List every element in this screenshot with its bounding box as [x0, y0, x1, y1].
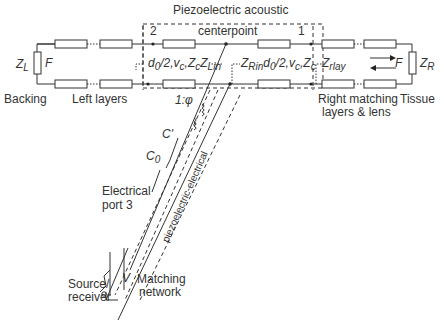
- right-layer-top-1: [322, 40, 354, 48]
- left-force-label: F: [45, 56, 53, 70]
- matching-network-label-2: network: [139, 285, 182, 299]
- piezo-right-top: [258, 40, 290, 48]
- tissue-impedance: [409, 52, 416, 74]
- centerpoint-label: centerpoint: [198, 24, 258, 38]
- right-piezo-params: ZRind0/2,vc,Zc: [240, 56, 316, 72]
- tissue-label: Tissue: [400, 92, 435, 106]
- backing-impedance: [34, 52, 41, 74]
- right-matching-label-2: layers & lens: [322, 105, 391, 119]
- backing-label: Backing: [4, 92, 47, 106]
- matching-network-label-1: Matching: [137, 272, 186, 286]
- voltage-label: V: [122, 271, 131, 285]
- transducer-equivalent-circuit: Piezoelectric acoustic centerpoint 2 1 Z…: [0, 0, 445, 329]
- zl-label: ZL: [15, 57, 29, 73]
- right-force-label: F: [395, 56, 403, 70]
- electrical-port-label-1: Electrical: [102, 184, 151, 198]
- source-label-2: receiver: [68, 290, 111, 304]
- electrical-wire-top: [130, 44, 226, 270]
- source-label-1: Source/: [68, 277, 110, 291]
- port-1-label: 1: [298, 24, 305, 38]
- right-layer-top-2: [364, 40, 396, 48]
- left-piezo-params: d0/2,vc,ZcZLin: [148, 56, 221, 72]
- zr-label: ZR: [419, 56, 435, 72]
- port-2-label: 2: [150, 24, 157, 38]
- left-layer-top-2: [100, 40, 132, 48]
- right-matching-label-1: Right matching: [318, 92, 398, 106]
- diagonal-label: piezoelectric-electrical: [160, 149, 210, 243]
- z-rlay-label: Zrlay: [321, 56, 346, 72]
- piezo-title: Piezoelectric acoustic: [173, 3, 288, 17]
- piezo-left-top: [163, 40, 195, 48]
- c-prime-label: C': [162, 127, 174, 141]
- electrical-port-label-2: port 3: [102, 198, 133, 212]
- transformer-ratio-label: 1:φ: [175, 93, 193, 107]
- capacitor-c0: [152, 170, 160, 192]
- left-layer-top-1: [55, 40, 87, 48]
- left-layers-label: Left layers: [72, 92, 127, 106]
- c0-label: C0: [146, 149, 161, 165]
